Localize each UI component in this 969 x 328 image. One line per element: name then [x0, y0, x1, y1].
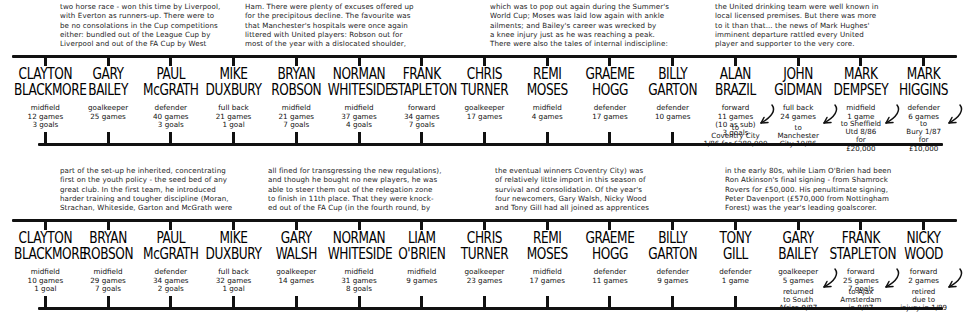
narrative-line: the eventual winners Coventry City) was	[495, 166, 723, 175]
narrative-line: ailments; and Bailey's career was wrecke…	[490, 21, 712, 30]
player-card[interactable]: BILLYGARTONdefender9 games	[641, 230, 704, 296]
player-card[interactable]: CLAYTONBLACKMOREmidfield12 games3 goals	[14, 66, 77, 132]
player-card[interactable]: CHRISTURNERgoalkeeper23 games	[453, 230, 516, 296]
narrative-line: littered with United players: Robson out…	[245, 30, 485, 39]
player-card[interactable]: GARYWALSHgoalkeeper14 games	[265, 230, 328, 296]
player-name: GRAEMEHOGG	[579, 230, 642, 261]
narrative-line: local licensed premises. But there was m…	[715, 11, 967, 20]
season-row-1986: two horse race - won this time by Liverp…	[0, 0, 969, 164]
player-card[interactable]: REMIMOSESmidfield4 games	[516, 66, 579, 132]
player-card[interactable]: BRYANROBSONmidfield29 games7 goals	[77, 230, 140, 296]
player-card[interactable]: BILLYGARTONdefender10 games	[641, 66, 704, 132]
player-stat-line: 11 games	[579, 277, 642, 285]
player-name-line: WALSH	[265, 245, 328, 260]
player-name-line: STAPLETON	[830, 245, 893, 260]
connector-stub-bottom	[546, 132, 549, 144]
player-stats: midfield4 games	[516, 104, 579, 121]
player-name-line: STAPLETON	[390, 81, 453, 96]
player-name-line: MOSES	[516, 81, 579, 96]
player-card[interactable]: PAULMcGRATHdefender40 games3 goals	[139, 66, 202, 132]
player-name: BRYANROBSON	[77, 230, 140, 261]
narrative-line: Liverpool and out of the FA Cup by West	[60, 39, 245, 48]
connector-stub-bottom	[169, 296, 172, 308]
player-card[interactable]: GARYBAILEYgoalkeeper25 games	[77, 66, 140, 132]
player-card[interactable]: TONYGILLdefender1 game	[704, 230, 767, 296]
player-stat-line: 3 goals	[139, 121, 202, 129]
player-name-line: GIDMAN	[767, 81, 830, 96]
player-card[interactable]: LIAMO'BRIENmidfield9 games	[390, 230, 453, 296]
player-name-line: GARTON	[641, 245, 704, 260]
player-name: REMIMOSES	[516, 66, 579, 97]
player-card[interactable]: NORMANWHITESIDEmidfield31 games8 goals	[328, 230, 391, 296]
narrative-line: and Tony Gill had all joined as apprenti…	[495, 203, 723, 212]
connector-stub-bottom	[107, 132, 110, 144]
player-name: NORMANWHITESIDE	[328, 66, 391, 97]
narrative-line: of relatively little import in this seas…	[495, 175, 723, 184]
player-card[interactable]: BRYANROBSONmidfield21 games7 goals	[265, 66, 328, 132]
player-name: BRYANROBSON	[265, 66, 328, 97]
player-name: MARKHIGGINS	[892, 66, 955, 97]
player-stat-line: 4 goals	[328, 121, 391, 129]
player-name-line: O'BRIEN	[390, 245, 453, 260]
narrative-line: great club. In the first team, he introd…	[60, 185, 268, 194]
player-stats: midfield10 games1 goal	[14, 268, 77, 293]
player-name: MARKDEMPSEY	[830, 66, 893, 97]
player-name-line: DUXBURY	[202, 81, 265, 96]
narrative-line: the United drinking team were well known…	[715, 2, 967, 11]
narrative-line: part of the set-up he inherited, concent…	[60, 166, 268, 175]
player-stat-line: 8 goals	[328, 285, 391, 293]
player-name-line: DUXBURY	[202, 245, 265, 260]
player-stats: goalkeeper14 games	[265, 268, 328, 285]
player-name-line: ROBSON	[265, 81, 328, 96]
player-stat-line: 9 games	[390, 277, 453, 285]
connector-stub-bottom	[420, 132, 423, 144]
player-name-line: BLACKMORE	[14, 245, 77, 260]
season-row-1987: part of the set-up he inherited, concent…	[0, 164, 969, 328]
player-name: REMIMOSES	[516, 230, 579, 261]
transfer-arrow-icon	[936, 104, 966, 128]
player-stats: goalkeeper17 games	[453, 104, 516, 121]
player-name: ALANBRAZIL	[704, 66, 767, 97]
narrative-line: most of the year with a dislocated shoul…	[245, 39, 485, 48]
player-card[interactable]: CHRISTURNERgoalkeeper17 games	[453, 66, 516, 132]
player-stats: midfield37 games4 goals	[328, 104, 391, 129]
player-stat-line: 1 goal	[202, 285, 265, 293]
narrative-line: ed out of the FA Cup (in the fourth roun…	[268, 203, 494, 212]
narrative-line: with Everton as runners-up. There were t…	[60, 11, 245, 20]
player-stat-line: 4 games	[516, 113, 579, 121]
player-card[interactable]: REMIMOSESmidfield17 games	[516, 230, 579, 296]
player-name-line: GILL	[704, 245, 767, 260]
transfer-arrow-icon	[936, 268, 966, 292]
player-stats: full back32 games1 goal	[202, 268, 265, 293]
connector-stub-bottom	[295, 132, 298, 144]
player-card[interactable]: MIKEDUXBURYfull back21 games1 goal	[202, 66, 265, 132]
player-card[interactable]: FRANKSTAPLETONforward34 games7 goals	[390, 66, 453, 132]
player-card[interactable]: PAULMcGRATHdefender34 games2 goals	[139, 230, 202, 296]
connector-stub-bottom	[169, 132, 172, 144]
transfer-note-line: injury in 1/89	[886, 304, 961, 312]
player-stats: midfield31 games8 goals	[328, 268, 391, 293]
player-stat-line: 1 goal	[202, 121, 265, 129]
player-card[interactable]: GRAEMEHOGGdefender11 games	[579, 230, 642, 296]
player-name-line: MOSES	[516, 245, 579, 260]
player-card[interactable]: MIKEDUXBURYfull back32 games1 goal	[202, 230, 265, 296]
player-stat-line: 1 goal	[14, 285, 77, 293]
narrative-block: the United drinking team were well known…	[715, 2, 967, 52]
player-name: MIKEDUXBURY	[202, 66, 265, 97]
player-card[interactable]: GRAEMEHOGGdefender17 games	[579, 66, 642, 132]
narrative-line: There were also the tales of internal in…	[490, 39, 712, 48]
player-stat-line: 7 goals	[265, 121, 328, 129]
player-stats: defender40 games3 goals	[139, 104, 202, 129]
narrative-line: that Manchester's hospitals were once ag…	[245, 21, 485, 30]
player-name: MIKEDUXBURY	[202, 230, 265, 261]
player-stats: midfield12 games3 goals	[14, 104, 77, 129]
connector-stub-bottom	[608, 132, 611, 144]
connector-stub-bottom	[232, 132, 235, 144]
player-name-line: WOOD	[892, 245, 955, 260]
player-name-line: McGRATH	[139, 81, 202, 96]
connector-stub-bottom	[44, 296, 47, 308]
player-card[interactable]: CLAYTONBLACKMOREmidfield10 games1 goal	[14, 230, 77, 296]
player-card[interactable]: NORMANWHITESIDEmidfield37 games4 goals	[328, 66, 391, 132]
player-name: BILLYGARTON	[641, 230, 704, 261]
narrative-block: in the early 80s, while Liam O'Brien had…	[725, 166, 968, 216]
